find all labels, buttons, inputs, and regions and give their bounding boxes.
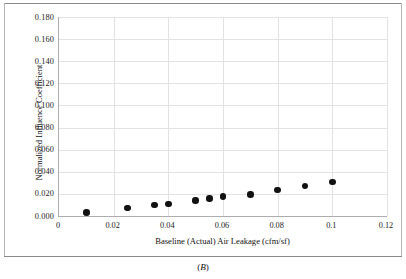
data-point <box>302 183 308 189</box>
gridline-vertical <box>168 17 169 216</box>
x-axis-tick-label: 0.06 <box>202 221 242 231</box>
gridline-vertical <box>223 17 224 216</box>
data-point <box>165 201 171 207</box>
figure-bottom-rule <box>4 256 402 257</box>
data-point <box>83 209 89 215</box>
figure-caption: (B) <box>0 261 406 273</box>
x-axis-tick-label: 0.04 <box>147 221 187 231</box>
data-point <box>247 191 253 197</box>
figure-right-border <box>401 3 402 256</box>
figure-panel-b: Normalized Influence Coefficient 0.0000.… <box>0 0 406 279</box>
y-axis-tick-label: 0.060 <box>6 145 54 154</box>
y-axis-tick-label: 0.120 <box>6 79 54 88</box>
caption-suffix: ) <box>206 262 209 272</box>
figure-top-rule <box>4 3 402 4</box>
y-axis-tick-label: 0.140 <box>6 57 54 66</box>
data-point <box>192 197 198 203</box>
data-point <box>220 193 226 199</box>
y-axis-tick-label: 0.080 <box>6 123 54 132</box>
x-axis-tick-label: 0 <box>38 221 78 231</box>
y-axis-tick-label: 0.040 <box>6 167 54 176</box>
gridline-vertical <box>114 17 115 216</box>
data-point <box>151 202 157 208</box>
data-point <box>206 195 212 201</box>
y-axis-tick-labels: 0.0000.0200.0400.0600.0800.1000.1200.140… <box>4 17 54 217</box>
y-axis-tick-label: 0.160 <box>6 35 54 44</box>
x-axis-tick-label: 0.1 <box>311 221 351 231</box>
x-axis-tick-label: 0.02 <box>93 221 133 231</box>
y-axis-tick-label: 0.180 <box>6 13 54 22</box>
x-axis-tick-label: 0.12 <box>366 221 406 231</box>
y-axis-tick-label: 0.020 <box>6 189 54 198</box>
data-point <box>274 187 280 193</box>
x-axis-title: Baseline (Actual) Air Leakage (cfm/sf) <box>58 236 387 247</box>
gridline-vertical <box>332 17 333 216</box>
plot-area <box>58 17 387 217</box>
x-axis-tick-labels: 00.020.040.060.080.10.12 <box>58 221 387 233</box>
data-point <box>329 179 335 185</box>
y-axis-tick-label: 0.000 <box>6 212 54 221</box>
gridline-vertical <box>387 17 388 216</box>
data-point <box>124 205 130 211</box>
y-axis-tick-label: 0.100 <box>6 101 54 110</box>
x-axis-tick-label: 0.08 <box>257 221 297 231</box>
